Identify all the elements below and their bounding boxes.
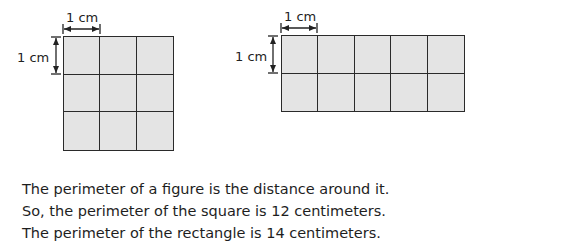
grid-cell [318,36,354,74]
text-line-3: The perimeter of the rectangle is 14 cen… [22,225,381,241]
rectangle-height-arrow-icon [268,35,278,75]
grid-cell [100,37,136,75]
grid-cell [428,74,464,112]
grid-cell [282,74,318,112]
grid-cell [64,37,100,75]
grid-cell [137,112,173,150]
text-line-2: So, the perimeter of the square is 12 ce… [22,203,386,219]
grid-cell [64,112,100,150]
grid-cell [100,112,136,150]
square-width-label: 1 cm [66,10,98,25]
square-height-arrow-icon [51,36,61,76]
grid-cell [391,36,427,74]
grid-cell [318,74,354,112]
square-height-label: 1 cm [17,50,49,65]
rectangle-width-label: 1 cm [284,9,316,24]
grid-cell [137,37,173,75]
rectangle-width-arrow-icon [280,23,319,33]
grid-cell [355,74,391,112]
grid-cell [64,75,100,113]
grid-cell [100,75,136,113]
grid-cell [282,36,318,74]
grid-cell [137,75,173,113]
grid-cell [428,36,464,74]
grid-cell [355,36,391,74]
text-line-1: The perimeter of a figure is the distanc… [22,181,389,197]
grid-cell [391,74,427,112]
rectangle-height-label: 1 cm [235,49,267,64]
square-grid [63,36,174,151]
square-width-arrow-icon [62,24,102,34]
rectangle-grid [281,35,465,112]
